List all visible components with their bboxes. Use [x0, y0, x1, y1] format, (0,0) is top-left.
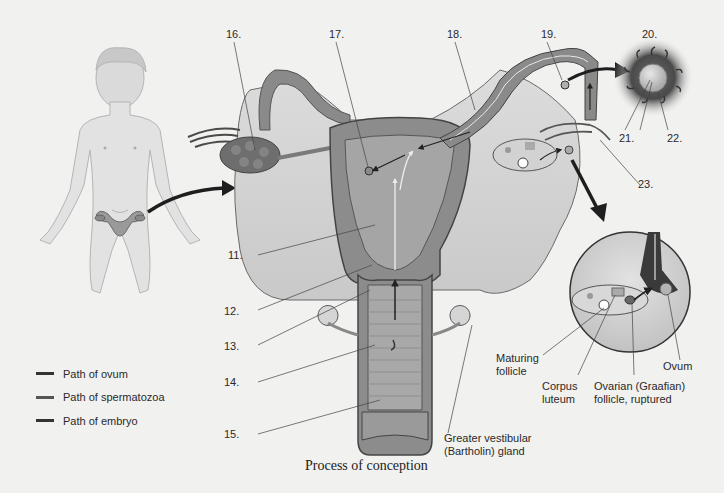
- legend: Path of ovum Path of spermatozoa Path of…: [36, 362, 165, 433]
- female-body-figure: [40, 48, 200, 293]
- inset-ovum: [660, 283, 672, 295]
- label-13: 13.: [224, 340, 239, 353]
- label-maturing-follicle: Maturing follicle: [496, 352, 539, 378]
- label-23: 23.: [638, 178, 653, 191]
- ovum-zoomed: [639, 64, 667, 92]
- label-12: 12.: [224, 305, 239, 318]
- legend-swatch: [36, 396, 54, 399]
- label-bartholin-gland: Greater vestibular (Bartholin) gland: [444, 432, 531, 458]
- label-17: 17.: [329, 28, 344, 41]
- label-14: 14.: [224, 376, 239, 389]
- label-22: 22.: [667, 132, 682, 145]
- legend-swatch: [36, 372, 54, 375]
- label-21: 21.: [619, 132, 634, 145]
- legend-item-ovum: Path of ovum: [36, 362, 165, 386]
- legend-swatch: [36, 419, 54, 422]
- label-15: 15.: [224, 428, 239, 441]
- label-ovarian-follicle: Ovarian (Graafian) follicle, ruptured: [594, 380, 685, 406]
- label-11: 11.: [228, 249, 242, 262]
- legend-item-embryo: Path of embryo: [36, 409, 165, 433]
- conception-diagram: 16. 17. 18. 19. 20. 21. 22. 23. 11. 12. …: [0, 0, 724, 493]
- label-ovum: Ovum: [663, 360, 692, 373]
- legend-item-spermatozoa: Path of spermatozoa: [36, 386, 165, 410]
- label-19: 19.: [541, 28, 556, 41]
- figure-caption: Process of conception: [305, 458, 428, 474]
- label-corpus-luteum: Corpus luteum: [542, 380, 577, 406]
- ovum-in-tube: [561, 81, 569, 89]
- label-20: 20.: [642, 28, 657, 41]
- inset-ovary: [572, 285, 648, 315]
- fertilized-ovum: [365, 167, 373, 175]
- label-16: 16.: [226, 28, 241, 41]
- label-18: 18.: [447, 28, 462, 41]
